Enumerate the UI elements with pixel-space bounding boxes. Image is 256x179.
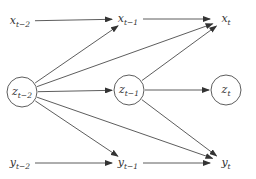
node-z_t: zt	[211, 75, 241, 105]
node-y_t-2: yt−2	[9, 156, 31, 171]
node-y_t-1: yt−1	[117, 156, 138, 171]
node-z_t-2: zt−2	[7, 77, 37, 107]
edge-z_t-1-to-y_t	[142, 100, 217, 156]
node-x_t-1: xt−1	[118, 12, 138, 27]
edge-z_t-2-to-x_t-1	[35, 26, 118, 83]
node-label: yt−2	[9, 156, 31, 171]
edge-x_t-2-to-x_t-1	[35, 19, 112, 20]
node-x_t-2: xt−2	[10, 14, 31, 29]
node-label: yt	[220, 156, 231, 171]
node-label: xt	[221, 12, 231, 27]
node-label: zt	[221, 83, 232, 98]
node-label: zt−1	[118, 83, 139, 98]
node-label: xt−1	[118, 12, 138, 27]
edge-z_t-2-to-z_t-1	[38, 90, 112, 91]
edge-z_t-2-to-x_t	[37, 24, 213, 87]
edge-z_t-2-to-y_t	[37, 97, 212, 158]
node-z_t-1: zt−1	[114, 75, 144, 105]
node-label: xt−2	[10, 14, 31, 29]
node-x_t: xt	[221, 12, 231, 27]
node-label: zt−2	[11, 85, 32, 100]
edge-z_t-1-to-x_t	[142, 26, 216, 80]
node-label: yt−1	[117, 156, 138, 171]
node-y_t: yt	[220, 156, 231, 171]
edge-z_t-2-to-y_t-1	[35, 101, 118, 156]
graphical-model-diagram: xt−2xt−1xtzt−2zt−1ztyt−2yt−1yt	[0, 0, 256, 179]
